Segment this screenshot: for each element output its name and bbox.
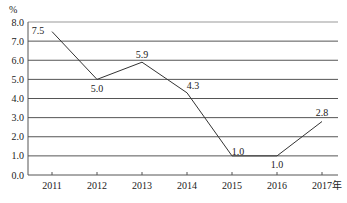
- data-label: 2.8: [316, 107, 329, 118]
- x-tick-label: 2016: [267, 180, 287, 191]
- y-tick-label: 7.0: [12, 36, 25, 47]
- gridlines: [28, 22, 338, 156]
- y-tick-label: 6.0: [12, 55, 25, 66]
- y-tick-label: 0.0: [12, 170, 25, 181]
- data-label: 7.5: [32, 25, 45, 36]
- data-label: 1.0: [271, 159, 284, 170]
- y-tick-label: 5.0: [12, 74, 25, 85]
- x-tick-label: 2014: [177, 180, 197, 191]
- y-tick-label: 8.0: [12, 17, 25, 28]
- line-chart: 0.01.02.03.04.05.06.07.08.0 201120122013…: [0, 0, 347, 203]
- x-tick-label: 2011: [42, 180, 62, 191]
- x-tick-labels: 2011201220132014201520162017年: [42, 179, 342, 191]
- x-tick-label: 2013: [132, 180, 152, 191]
- y-tick-labels: 0.01.02.03.04.05.06.07.08.0: [12, 17, 25, 181]
- x-tick-label: 2015: [222, 180, 242, 191]
- y-tick-label: 1.0: [12, 150, 25, 161]
- x-tick-label: 2012: [87, 180, 107, 191]
- y-tick-label: 4.0: [12, 93, 25, 104]
- data-label: 5.9: [136, 49, 149, 60]
- y-axis-unit-label: %: [9, 4, 17, 15]
- data-label: 4.3: [187, 80, 200, 91]
- data-label: 5.0: [91, 83, 104, 94]
- y-tick-label: 2.0: [12, 131, 25, 142]
- data-label: 1.0: [232, 146, 245, 157]
- x-tick-label: 2017年: [312, 179, 342, 191]
- data-labels: 7.55.05.94.31.01.02.8: [32, 25, 329, 170]
- y-tick-label: 3.0: [12, 112, 25, 123]
